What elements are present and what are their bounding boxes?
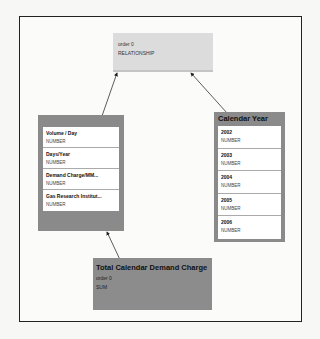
list-item[interactable]: 2004 NUMBER bbox=[218, 171, 281, 194]
item-name: Volume / Day bbox=[46, 129, 116, 137]
item-type: NUMBER bbox=[221, 204, 278, 213]
calendar-year-title: Calendar Year bbox=[218, 114, 281, 123]
total-order: order 0 bbox=[96, 274, 212, 283]
calendar-year-list: 2002 NUMBER 2003 NUMBER 2004 NUMBER 2005… bbox=[218, 126, 281, 239]
list-item[interactable]: 2002 NUMBER bbox=[218, 126, 281, 149]
list-item[interactable]: Days/Year NUMBER bbox=[43, 148, 119, 169]
list-item[interactable]: 2006 NUMBER bbox=[218, 216, 281, 239]
item-name: 2004 bbox=[221, 173, 278, 181]
item-type: NUMBER bbox=[46, 158, 116, 167]
item-type: NUMBER bbox=[46, 179, 116, 188]
item-type: NUMBER bbox=[221, 159, 278, 168]
relationship-order: order 0 bbox=[118, 40, 213, 49]
item-name: Demand Charge/MM... bbox=[46, 171, 116, 179]
total-title: Total Calendar Demand Charge bbox=[96, 263, 212, 272]
relationship-node[interactable]: order 0 RELATIONSHIP bbox=[113, 33, 213, 72]
item-type: NUMBER bbox=[46, 137, 116, 146]
item-type: NUMBER bbox=[221, 181, 278, 190]
item-name: Gas Research Institut... bbox=[46, 192, 116, 200]
item-name: Days/Year bbox=[46, 150, 116, 158]
item-type: NUMBER bbox=[221, 226, 278, 235]
inputs-node[interactable]: Volume / Day NUMBER Days/Year NUMBER Dem… bbox=[38, 115, 124, 231]
item-name: 2003 bbox=[221, 151, 278, 159]
item-type: NUMBER bbox=[46, 200, 116, 209]
list-item[interactable]: 2005 NUMBER bbox=[218, 194, 281, 217]
relationship-type: RELATIONSHIP bbox=[118, 49, 213, 58]
item-name: 2005 bbox=[221, 196, 278, 204]
list-item[interactable]: Gas Research Institut... NUMBER bbox=[43, 190, 119, 211]
inputs-list: Volume / Day NUMBER Days/Year NUMBER Dem… bbox=[43, 127, 119, 211]
list-item[interactable]: Demand Charge/MM... NUMBER bbox=[43, 169, 119, 190]
calendar-year-node[interactable]: Calendar Year 2002 NUMBER 2003 NUMBER 20… bbox=[214, 112, 285, 242]
total-node[interactable]: Total Calendar Demand Charge order 0 SUM bbox=[93, 258, 212, 310]
item-name: 2002 bbox=[221, 128, 278, 136]
item-name: 2006 bbox=[221, 218, 278, 226]
item-type: NUMBER bbox=[221, 136, 278, 145]
list-item[interactable]: Volume / Day NUMBER bbox=[43, 127, 119, 148]
list-item[interactable]: 2003 NUMBER bbox=[218, 149, 281, 172]
total-aggregation: SUM bbox=[96, 283, 212, 292]
